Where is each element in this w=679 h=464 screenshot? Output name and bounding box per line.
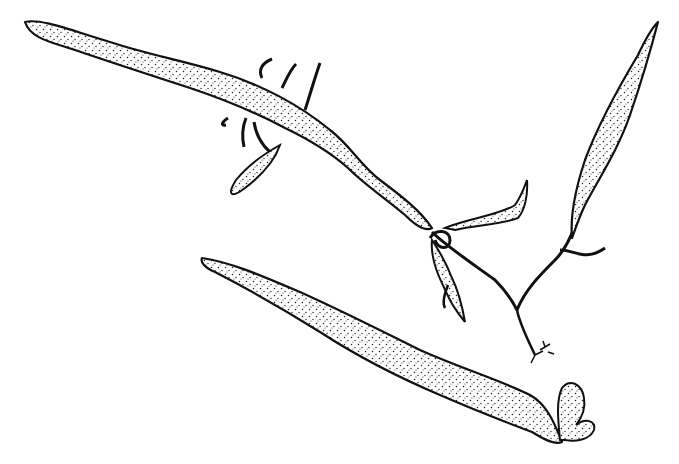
botanical-illustration: [0, 0, 679, 464]
lower-frond: [202, 258, 595, 443]
right-upright-frond: [572, 22, 658, 238]
upper-left-frond: [25, 21, 432, 229]
